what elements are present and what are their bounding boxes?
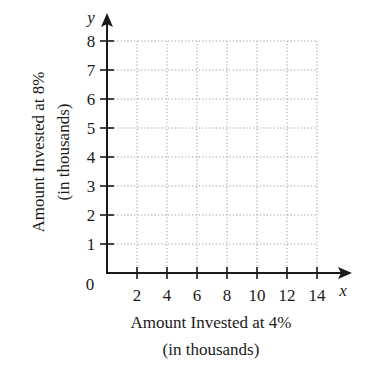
y-tick-label: 1 <box>87 235 96 254</box>
tick-labels: 246810121412345678 <box>87 32 326 305</box>
x-tick-label: 10 <box>249 286 266 305</box>
chart: 246810121412345678 0 x y Amount Invested… <box>0 0 372 380</box>
x-axis-subtitle: (in thousands) <box>163 340 260 359</box>
grid-lines <box>107 41 317 273</box>
y-tick-label: 2 <box>87 206 96 225</box>
x-tick-label: 6 <box>193 286 202 305</box>
origin-label: 0 <box>86 275 95 294</box>
y-tick-label: 3 <box>87 177 96 196</box>
y-tick-label: 8 <box>87 32 96 51</box>
x-tick-label: 4 <box>163 286 172 305</box>
y-tick-label: 6 <box>87 90 96 109</box>
y-tick-label: 5 <box>87 119 96 138</box>
x-tick-label: 12 <box>279 286 296 305</box>
y-tick-label: 7 <box>87 61 96 80</box>
y-axis-title: Amount Invested at 8% <box>29 72 48 233</box>
x-axis-variable: x <box>338 281 347 300</box>
y-axis-subtitle: (in thousands) <box>54 104 73 201</box>
x-tick-label: 2 <box>133 286 142 305</box>
y-tick-label: 4 <box>87 148 96 167</box>
x-axis-title: Amount Invested at 4% <box>131 313 292 332</box>
ticks <box>100 41 317 279</box>
x-tick-label: 14 <box>309 286 327 305</box>
x-tick-label: 8 <box>223 286 232 305</box>
y-axis-variable: y <box>85 8 95 27</box>
